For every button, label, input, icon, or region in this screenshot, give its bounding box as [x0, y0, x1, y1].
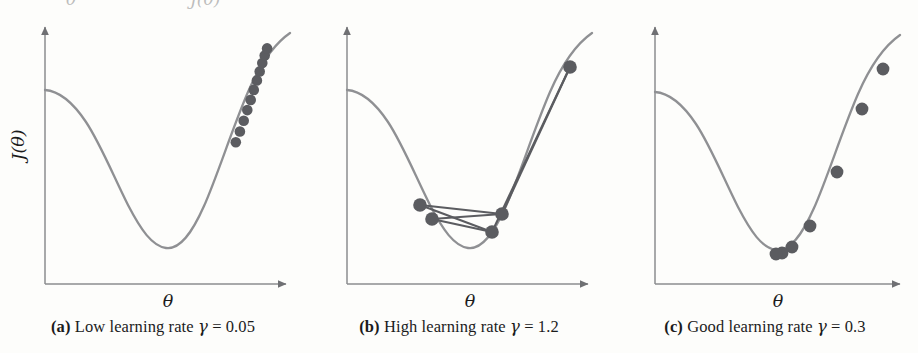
iterate-point	[249, 85, 260, 96]
x-axis-label-a: θ	[163, 291, 174, 311]
iterate-point	[231, 137, 242, 148]
panel-c-plot: θ	[612, 0, 918, 312]
iterate-points-c	[770, 63, 890, 261]
iterate-point	[831, 166, 844, 179]
panel-a-plot: J(θ) θ	[0, 0, 306, 312]
caption-a-gamma: γ	[198, 317, 208, 336]
iterate-point	[235, 126, 246, 137]
iterate-point	[245, 95, 256, 106]
panel-a-low-learning-rate: J(θ) θ	[0, 0, 306, 312]
iterate-point	[252, 75, 263, 86]
iterate-point	[770, 248, 783, 261]
caption-b-tag: (b)	[359, 317, 379, 336]
caption-c-value: 0.3	[845, 317, 866, 336]
caption-a-value: 0.05	[226, 317, 255, 336]
caption-b-equals: =	[520, 317, 538, 336]
panel-c-good-learning-rate: θ	[612, 0, 918, 312]
iterate-points-a	[231, 43, 273, 147]
caption-b: (b) High learning rate γ = 1.2	[306, 312, 612, 353]
caption-c: (c) Good learning rate γ = 0.3	[612, 312, 918, 353]
iterate-point	[495, 207, 509, 221]
connector-segment	[432, 214, 502, 219]
panel-b-high-learning-rate: θ	[306, 0, 612, 312]
iterate-point	[563, 60, 577, 74]
panels-row: J(θ) θ	[0, 0, 918, 312]
iterate-point	[804, 220, 817, 233]
iterate-point	[877, 63, 890, 76]
caption-c-text: Good learning rate	[683, 317, 817, 336]
caption-c-equals: =	[827, 317, 845, 336]
connector-segment	[492, 67, 570, 232]
x-axis-label-c: θ	[773, 291, 784, 311]
caption-b-text: High learning rate	[380, 317, 510, 336]
x-axis-label-b: θ	[465, 291, 476, 311]
panel-b-plot: θ	[306, 0, 612, 312]
caption-b-value: 1.2	[538, 317, 559, 336]
iterate-point	[262, 43, 273, 54]
caption-a-equals: =	[208, 317, 226, 336]
caption-b-gamma: γ	[510, 317, 520, 336]
caption-a-text: Low learning rate	[71, 317, 198, 336]
caption-a-tag: (a)	[51, 317, 71, 336]
oscillation-connectors-b	[420, 67, 570, 232]
cost-curve-c	[655, 35, 900, 250]
caption-a: (a) Low learning rate γ = 0.05	[0, 312, 306, 353]
iterate-point	[238, 116, 249, 127]
caption-c-gamma: γ	[817, 317, 827, 336]
iterate-point	[425, 212, 439, 226]
iterate-point	[242, 105, 253, 116]
iterate-point	[413, 198, 427, 212]
cost-curve-a	[45, 33, 290, 248]
gradient-descent-learning-rate-figure: θ J(θ)	[0, 0, 918, 353]
iterate-point	[856, 103, 869, 116]
caption-c-tag: (c)	[664, 317, 683, 336]
y-axis-label-a: J(θ)	[8, 129, 28, 163]
captions-row: (a) Low learning rate γ = 0.05 (b) High …	[0, 312, 918, 353]
iterate-point	[485, 225, 499, 239]
